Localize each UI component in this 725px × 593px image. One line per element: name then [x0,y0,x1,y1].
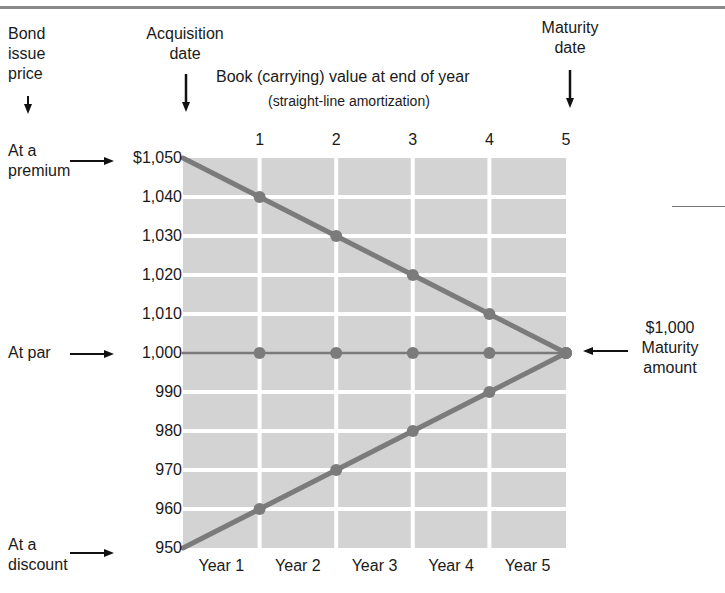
data-point [407,425,419,437]
y-tick-label: 960 [100,499,182,519]
x-top-tick-label: 3 [393,130,433,150]
x-bottom-label: Year 3 [337,556,413,576]
data-point [560,347,572,359]
data-point [407,269,419,281]
premium-label: At a premium [8,141,70,181]
x-bottom-label: Year 1 [183,556,259,576]
data-point [483,347,495,359]
discount-label: At a discount [8,535,68,575]
y-tick-label: 1,000 [100,343,182,363]
x-bottom-label: Year 5 [490,556,566,576]
arrow-down-icon [182,102,190,112]
arrow-down-icon [24,104,32,114]
acquisition-date-label: Acquisition date [130,24,240,64]
y-tick-label: 950 [100,538,182,558]
chart-title: Book (carrying) value at end of year [216,67,469,87]
par-label: At par [8,343,51,363]
data-point [483,308,495,320]
maturity-date-label: Maturity date [520,18,620,58]
y-tick-label: $1,050 [100,148,182,168]
data-point [483,386,495,398]
y-tick-label: 990 [100,382,182,402]
y-tick-label: 980 [100,421,182,441]
data-point [254,503,266,515]
data-point [330,230,342,242]
y-tick-label: 1,040 [100,187,182,207]
x-top-tick-label: 5 [546,130,586,150]
x-top-tick-label: 4 [469,130,509,150]
arrow-head-icon [583,347,593,355]
x-top-tick-label: 2 [316,130,356,150]
data-point [254,191,266,203]
data-point [330,464,342,476]
arrow-down-icon [566,98,574,108]
x-bottom-label: Year 2 [260,556,336,576]
chart-subtitle: (straight-line amortization) [268,91,430,111]
y-tick-label: 970 [100,460,182,480]
y-tick-label: 1,010 [100,304,182,324]
data-point [407,347,419,359]
x-bottom-label: Year 4 [413,556,489,576]
data-point [254,347,266,359]
bond-issue-price-label: Bond issue price [8,24,45,84]
data-point [330,347,342,359]
y-tick-label: 1,020 [100,265,182,285]
y-tick-label: 1,030 [100,226,182,246]
x-top-tick-label: 1 [240,130,280,150]
maturity-amount-label: $1,000 Maturity amount [625,318,715,378]
